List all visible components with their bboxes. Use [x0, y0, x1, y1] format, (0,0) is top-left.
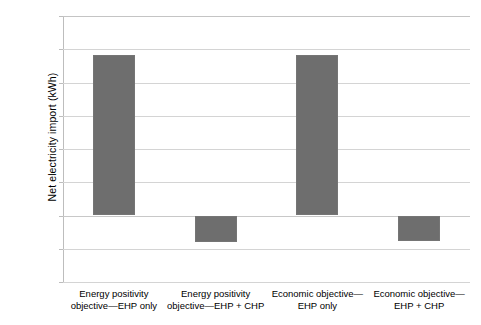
bar-chart: Net electricity import (kWh) 60050040030…	[0, 0, 481, 325]
x-axis-label-line: EHP + CHP	[369, 300, 469, 312]
x-axis-label-line: Economic objective—	[369, 288, 469, 300]
y-tick-mark	[59, 16, 63, 17]
y-tick-mark	[59, 116, 63, 117]
bar	[93, 55, 135, 216]
x-axis-label-line: Energy positivity	[64, 288, 164, 300]
x-axis-label: Economic objective—EHP + CHP	[368, 288, 470, 322]
gridline-neg100	[63, 249, 470, 250]
x-axis-label-line: EHP only	[268, 300, 368, 312]
x-axis-label-line: objective—EHP + CHP	[166, 300, 266, 312]
gridline-600	[63, 16, 470, 17]
x-axis-label-line: Economic objective—	[268, 288, 368, 300]
y-tick-mark	[59, 149, 63, 150]
gridline-neg200	[63, 282, 470, 283]
x-axis-label-line: Energy positivity	[166, 288, 266, 300]
y-axis-title: Net electricity import (kWh)	[46, 0, 58, 277]
bar	[195, 216, 237, 243]
y-tick-mark	[59, 249, 63, 250]
x-axis-label: Energy positivityobjective—EHP only	[63, 288, 165, 322]
y-tick-mark	[59, 216, 63, 217]
plot-area	[63, 16, 470, 282]
y-tick-mark	[59, 182, 63, 183]
x-axis-label-line: objective—EHP only	[64, 300, 164, 312]
gridline-500	[63, 49, 470, 50]
x-axis-label: Economic objective—EHP only	[267, 288, 369, 322]
bar	[296, 55, 338, 216]
y-tick-mark	[59, 49, 63, 50]
y-tick-mark	[59, 83, 63, 84]
x-axis-label: Energy positivityobjective—EHP + CHP	[165, 288, 267, 322]
y-tick-mark	[59, 282, 63, 283]
x-axis-category-labels: Energy positivityobjective—EHP onlyEnerg…	[63, 288, 470, 322]
bar	[398, 216, 440, 242]
